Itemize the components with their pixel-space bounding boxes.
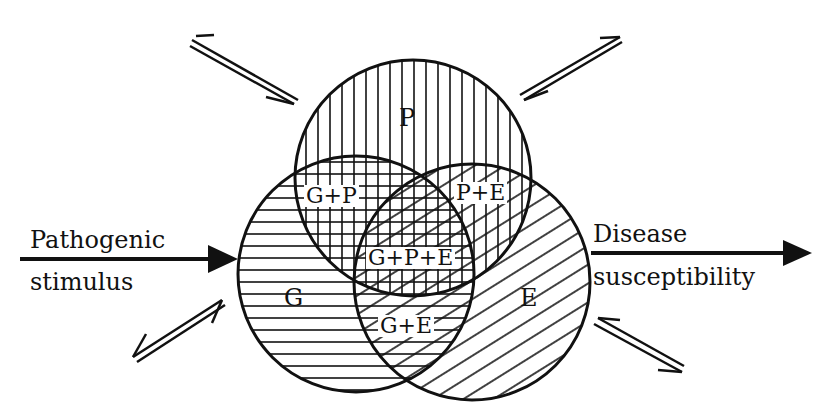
label-p-plus-e: P+E <box>454 182 507 204</box>
interaction-arrow-top-right <box>520 37 622 100</box>
label-g-plus-e: G+E <box>378 315 434 337</box>
input-label-line1: Pathogenic <box>30 228 165 252</box>
label-e: E <box>520 286 538 310</box>
interaction-arrow-bottom-right <box>594 318 684 372</box>
output-label-line1: Disease <box>593 222 687 246</box>
input-label-line2: stimulus <box>30 270 133 294</box>
output-label-line2: susceptibility <box>593 265 755 289</box>
label-g-plus-p-plus-e: G+P+E <box>366 247 455 269</box>
label-p: P <box>399 106 415 130</box>
venn-diagram <box>0 0 829 418</box>
label-g: G <box>284 286 303 310</box>
label-g-plus-p: G+P <box>304 185 359 207</box>
interaction-arrow-top-left <box>190 35 298 104</box>
interaction-arrow-bottom-left <box>133 300 225 362</box>
